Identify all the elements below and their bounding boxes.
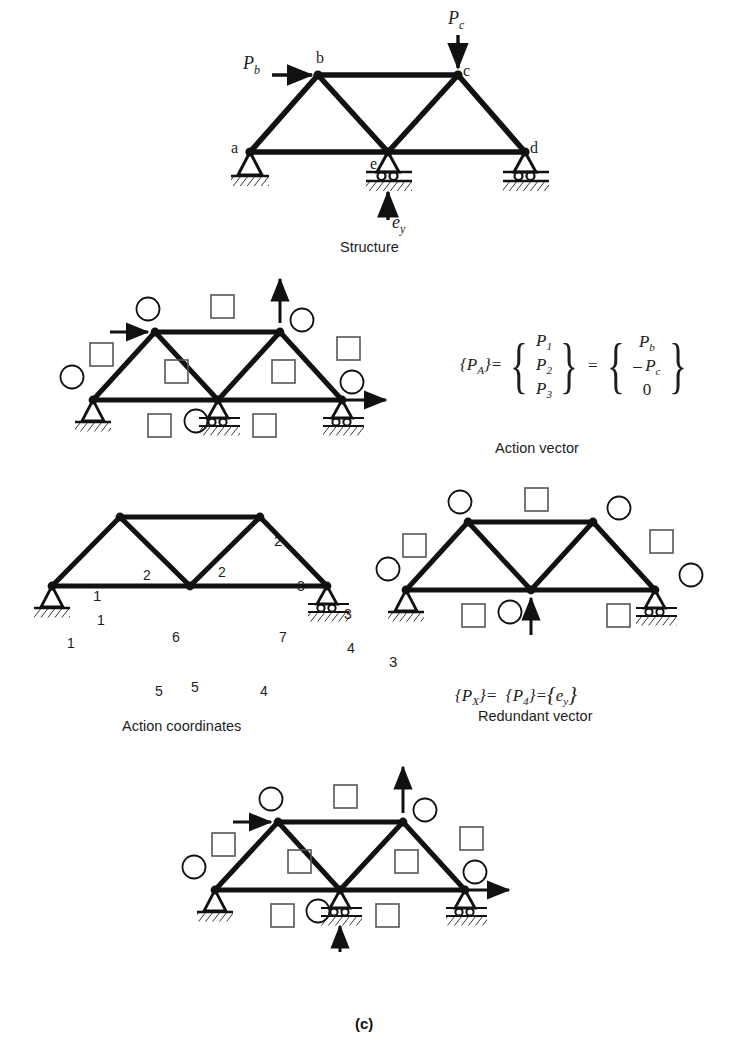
load-Pc-subscript: c [459, 18, 464, 32]
joint-number-5: 5 [191, 679, 199, 695]
truss-members [93, 332, 342, 400]
redundant-coordinates-diagram [390, 490, 735, 660]
P2-sub: 2 [547, 364, 553, 376]
zero-entry: 0 [633, 379, 660, 401]
load-Pb-symbol: P [243, 53, 254, 73]
load-ey-symbol: e [392, 212, 400, 232]
caption-action-vector: Action vector [495, 440, 579, 456]
panel-primary-structure: Primary structure [0, 490, 380, 650]
support-pin-1 [388, 590, 424, 622]
action-vector-col-values: Pb – Pc 0 [633, 331, 660, 400]
Pb-sub: b [649, 341, 655, 353]
load-label-ey: ey [392, 212, 405, 237]
Pc-sub: c [656, 365, 661, 377]
support-pin-left [34, 586, 70, 618]
load-label-Pc: Pc [448, 8, 464, 33]
caption-action-coordinates: Action coordinates [122, 718, 241, 734]
node-label-a: a [231, 139, 238, 157]
node-label-b: b [316, 49, 324, 67]
action-coordinates-diagram [0, 265, 400, 465]
support-pin-1 [197, 890, 233, 922]
panel-redundant-coordinates: 1 2 3 4 5 1 2 3 4 5 4 Redundant coordina… [390, 490, 735, 660]
panel-global-coordinates: 1 2 3 4 5 1 2 3 4 5 6 7 1 2 3 4 Global c… [0, 745, 600, 960]
member-number-4: 4 [260, 683, 268, 699]
panel-action-coordinates: 1 2 3 4 5 1 2 3 4 5 6 7 1 2 3 Action coo… [0, 265, 400, 465]
member-number-5: 5 [155, 683, 163, 699]
P3-sub: 3 [547, 388, 553, 400]
node-label-c: c [463, 62, 470, 80]
support-roller-4 [636, 590, 677, 626]
figure-label: (c) [355, 1015, 373, 1032]
action-vector-lhs: {PA}= [460, 355, 502, 376]
member-boxes [90, 295, 360, 437]
load-Pc-symbol: P [448, 8, 459, 28]
structure-diagram [0, 0, 735, 250]
caption-structure: Structure [340, 239, 399, 255]
panel-structure: a b c d e Pb Pc ey Structure [0, 0, 735, 250]
support-roller-right [308, 586, 349, 622]
brace-open-1: { [510, 341, 528, 389]
truss-members [52, 517, 327, 586]
support-roller-4 [323, 400, 364, 436]
global-coordinates-diagram [0, 745, 600, 960]
primary-structure-diagram [0, 490, 380, 650]
truss-members [250, 75, 525, 152]
action-vector-col-P: P1 P2 P3 [536, 330, 552, 401]
load-Pb-subscript: b [254, 63, 260, 77]
support-roller-4 [446, 890, 487, 926]
support-pin-a [231, 152, 269, 186]
redundant-vector-equation: {PX}= {P4}={ey} [455, 681, 577, 707]
equals-sign: = [586, 356, 600, 376]
node-label-d: d [530, 139, 538, 157]
action-vector-equation: {PA}= { P1 P2 P3 } = { Pb – Pc 0 } [460, 330, 692, 401]
support-roller-5 [199, 400, 240, 436]
truss-joints [48, 513, 332, 591]
support-roller-d [503, 152, 549, 191]
truss-members [406, 522, 655, 590]
member-boxes [403, 488, 673, 627]
truss-joints [245, 70, 529, 156]
load-ey-subscript: y [400, 222, 405, 236]
brace-close-2: } [668, 341, 686, 389]
redundant-vector-text: {PX}= {P4}={ey} [455, 686, 577, 705]
brace-open-2: { [607, 341, 625, 389]
P1-sub: 1 [547, 340, 553, 352]
brace-close-1: } [560, 341, 578, 389]
truss-members [215, 822, 465, 890]
support-pin-1 [75, 400, 111, 432]
caption-redundant-vector: Redundant vector [478, 708, 592, 724]
support-roller-5 [321, 890, 362, 926]
node-label-e: e [370, 155, 377, 173]
load-label-Pb: Pb [243, 53, 260, 78]
